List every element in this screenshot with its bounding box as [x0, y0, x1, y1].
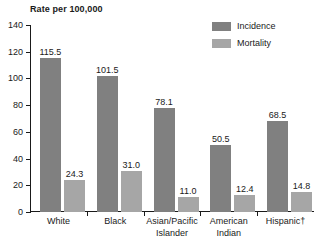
y-tick-label: 120 — [8, 47, 23, 57]
bar-value-label: 24.3 — [66, 169, 84, 179]
y-tick-label: 60 — [13, 127, 23, 137]
bar-mortality: 12.4 — [234, 195, 255, 212]
y-tick-label: 140 — [8, 20, 23, 30]
bar-mortality: 14.8 — [291, 192, 312, 212]
bar-value-label: 11.0 — [180, 186, 197, 196]
bar-value-label: 78.1 — [155, 97, 173, 107]
bar-value-label: 12.4 — [236, 184, 254, 194]
bar-value-label: 14.8 — [293, 181, 311, 191]
x-axis-label: Hispanic† — [251, 215, 316, 227]
y-tick-label: 20 — [13, 180, 23, 190]
y-tick-mark — [26, 132, 31, 133]
bar-incidence: 115.5 — [40, 58, 61, 212]
bar-group: 50.512.4 — [210, 25, 255, 212]
y-tick-label: 0 — [18, 207, 23, 217]
y-tick-mark — [26, 105, 31, 106]
x-axis-label-line: Indian — [194, 227, 263, 239]
plot-area: 020406080100120140 115.524.3101.531.078.… — [30, 25, 314, 212]
bar-incidence: 78.1 — [154, 108, 175, 212]
bar-chart: Rate per 100,000 IncidenceMortality 0204… — [0, 0, 316, 252]
x-axis-label-line: Hispanic† — [251, 215, 316, 227]
y-axis-line — [30, 25, 31, 212]
bar-group: 78.111.0 — [154, 25, 199, 212]
bar-incidence: 50.5 — [210, 145, 231, 212]
y-tick-mark — [26, 52, 31, 53]
y-tick-mark — [26, 185, 31, 186]
bar-value-label: 31.0 — [122, 160, 140, 170]
y-tick-mark — [26, 212, 31, 213]
y-tick-label: 40 — [13, 154, 23, 164]
bar-value-label: 68.5 — [269, 110, 287, 120]
y-tick-mark — [26, 78, 31, 79]
x-axis-labels: WhiteBlackAsian/PacificIslanderAmericanI… — [30, 215, 314, 251]
y-tick-mark — [26, 159, 31, 160]
bar-group: 101.531.0 — [97, 25, 142, 212]
bar-mortality: 24.3 — [64, 180, 85, 212]
bar-value-label: 101.5 — [96, 65, 119, 75]
bar-incidence: 101.5 — [97, 76, 118, 212]
y-tick-label: 100 — [8, 73, 23, 83]
bar-mortality: 11.0 — [178, 197, 199, 212]
bar-group: 115.524.3 — [40, 25, 85, 212]
y-tick-label: 80 — [13, 100, 23, 110]
bar-value-label: 50.5 — [212, 134, 230, 144]
bar-incidence: 68.5 — [267, 121, 288, 212]
bar-group: 68.514.8 — [267, 25, 312, 212]
y-tick-mark — [26, 25, 31, 26]
bar-mortality: 31.0 — [121, 171, 142, 212]
chart-title: Rate per 100,000 — [30, 4, 103, 14]
bar-value-label: 115.5 — [39, 47, 61, 57]
